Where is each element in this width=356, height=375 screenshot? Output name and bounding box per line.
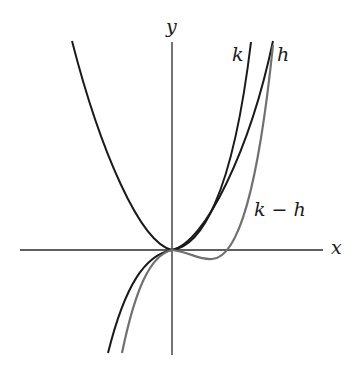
graph-canvas	[0, 0, 356, 375]
curve-label-h: h	[277, 45, 289, 64]
curve-label-k: k	[232, 45, 244, 64]
x-axis-label: x	[331, 238, 342, 257]
curve-k	[108, 42, 251, 353]
curve-k-minus-h	[122, 45, 273, 353]
curve-label-k-minus-h: k − h	[254, 200, 306, 219]
y-axis-label: y	[166, 17, 177, 36]
function-graph: y x k h k − h	[0, 0, 356, 375]
